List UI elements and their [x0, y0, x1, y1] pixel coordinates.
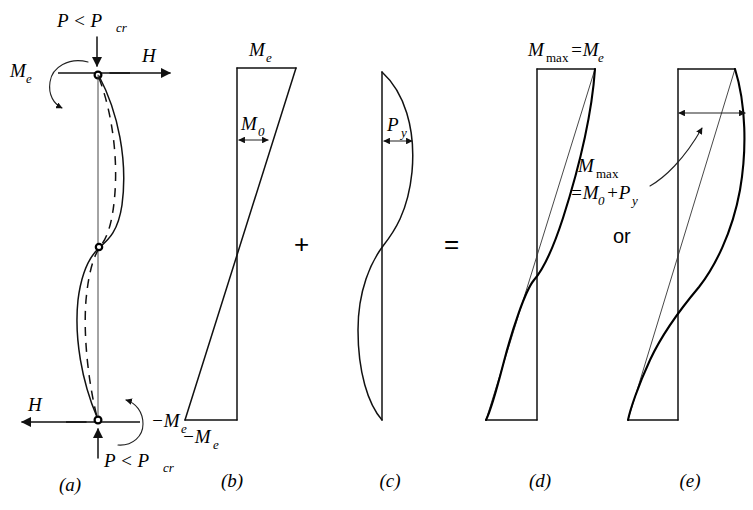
- label-b-top-sub: e: [266, 50, 272, 65]
- label-e-max-line2-b-sub: y: [630, 193, 638, 208]
- inflection-point: [96, 244, 102, 250]
- top-moment-arc: [50, 61, 88, 108]
- label-b-mid: M: [240, 113, 258, 134]
- label-bottom-load-sub: cr: [163, 460, 175, 475]
- label-c-dim-sub: y: [399, 125, 407, 140]
- panel-b: M e M 0 −M e (b): [182, 39, 296, 492]
- label-top-load: P < P: [56, 10, 103, 31]
- plus-operator: +: [294, 229, 309, 259]
- label-bottom-load: P < P: [103, 450, 150, 471]
- figure-root: P < P cr M e H −M e H P < P cr (a) M e M…: [0, 0, 753, 510]
- caption-a: (a): [59, 474, 81, 496]
- combined-moment-curve-e: [628, 69, 744, 420]
- label-d-max-eq: =M: [570, 39, 600, 60]
- label-top-moment-sub: e: [26, 71, 32, 86]
- caption-c: (c): [379, 470, 400, 492]
- primary-line-e: [628, 69, 735, 420]
- label-b-bottom: −M: [182, 426, 212, 447]
- label-d-max-sub: max: [546, 50, 569, 65]
- label-e-max-line1-sub: max: [596, 166, 619, 181]
- panel-e: M max =M 0 +P y (e): [570, 69, 745, 492]
- label-d-max: M: [527, 39, 545, 60]
- label-bottom-moment: −M: [151, 410, 181, 431]
- label-e-max-line1: M: [577, 155, 595, 176]
- panel-a: P < P cr M e H −M e H P < P cr (a): [9, 10, 187, 496]
- label-top-shear: H: [141, 45, 157, 66]
- equals-operator: =: [444, 229, 459, 259]
- caption-d: (d): [529, 470, 551, 492]
- label-e-max-line2-a: =M: [570, 182, 600, 203]
- label-b-mid-sub: 0: [258, 124, 265, 139]
- label-b-bottom-sub: e: [213, 437, 219, 452]
- label-top-load-sub: cr: [116, 20, 128, 35]
- label-top-moment: M: [9, 60, 27, 81]
- label-c-dim: P: [386, 114, 399, 135]
- panel-d: M max =M e (d): [486, 39, 604, 492]
- caption-b: (b): [221, 470, 243, 492]
- label-e-max-line2-b: +P: [606, 182, 631, 203]
- label-d-max-eq-sub: e: [598, 50, 604, 65]
- moment-superposition-figure: P < P cr M e H −M e H P < P cr (a) M e M…: [0, 0, 753, 510]
- label-e-max-line2-a-sub: 0: [598, 193, 605, 208]
- label-bottom-shear: H: [27, 394, 43, 415]
- panel-c: P y (c): [358, 72, 413, 492]
- or-operator: or: [613, 225, 631, 247]
- caption-e: (e): [679, 470, 700, 492]
- mmax-leader-arrow-e: [650, 128, 702, 186]
- label-b-top: M: [248, 39, 266, 60]
- bottom-hinge: [95, 417, 102, 424]
